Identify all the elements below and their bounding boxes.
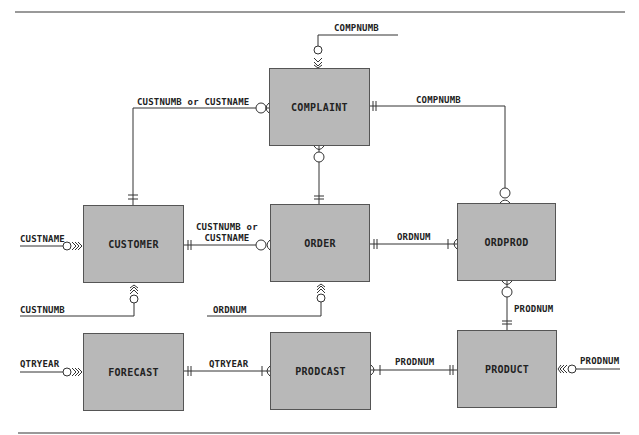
entity-order: ORDER	[270, 204, 370, 282]
entity-ordprod: ORDPROD	[457, 203, 556, 281]
label-customer-custname-key: CUSTNAME	[20, 234, 65, 245]
entity-customer: CUSTOMER	[83, 205, 184, 283]
complaint-ordprod-relationship	[370, 101, 510, 203]
label-customer-custnumb-key: CUSTNUMB	[20, 305, 65, 316]
customer-complaint-relationship	[128, 103, 269, 205]
label-ordprod-product: PRODNUM	[514, 304, 553, 315]
entity-ordprod-label: ORDPROD	[484, 237, 528, 248]
entity-complaint-label: COMPLAINT	[291, 102, 348, 113]
label-customer-order: CUSTNUMB or CUSTNAME	[196, 222, 258, 244]
label-customer-order-line1: CUSTNUMB or	[196, 222, 258, 233]
entity-product-label: PRODUCT	[485, 364, 529, 375]
label-customer-complaint: CUSTNUMB or CUSTNAME	[137, 97, 249, 108]
label-prodcast-product: PRODNUM	[395, 357, 434, 368]
label-product-prodnum-key: PRODNUM	[580, 356, 619, 367]
label-forecast-qtryear-key: QTRYEAR	[20, 359, 59, 370]
entity-order-label: ORDER	[304, 238, 336, 249]
complaint-order-relationship	[314, 146, 324, 204]
complaint-compnumb-key-connector	[314, 35, 398, 68]
label-order-ordnum-key: ORDNUM	[213, 305, 247, 316]
label-forecast-prodcast: QTRYEAR	[209, 359, 248, 370]
entity-customer-label: CUSTOMER	[108, 239, 159, 250]
ordprod-product-relationship	[502, 281, 512, 330]
entity-forecast-label: FORECAST	[108, 367, 159, 378]
label-order-ordprod: ORDNUM	[397, 232, 431, 243]
entity-product: PRODUCT	[457, 330, 557, 408]
label-customer-order-line2: CUSTNAME	[196, 233, 258, 244]
entity-complaint: COMPLAINT	[269, 68, 370, 146]
entity-forecast: FORECAST	[83, 333, 184, 411]
label-complaint-compnumb-key: COMPNUMB	[334, 23, 379, 34]
entity-prodcast-label: PRODCAST	[295, 366, 346, 377]
entity-prodcast: PRODCAST	[270, 332, 371, 410]
label-complaint-ordprod: COMPNUMB	[416, 95, 461, 106]
